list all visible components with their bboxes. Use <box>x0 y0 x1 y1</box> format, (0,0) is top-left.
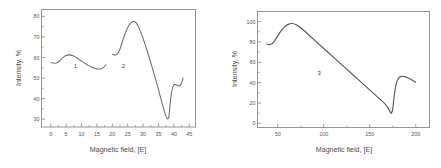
x-tick-label: 15 <box>94 131 100 137</box>
y-tick-label: 80 <box>34 13 40 19</box>
x-tick-labels-left: 0 5 10 15 20 25 30 35 40 45 <box>49 131 192 137</box>
x-tick-label: 30 <box>140 131 146 137</box>
data-curve-1 <box>51 55 106 69</box>
x-axis-ticks-right <box>278 124 416 128</box>
x-tick-label: 50 <box>275 131 281 137</box>
chart-svg-right: 100 80 60 40 20 0 50 100 150 200 Magneti… <box>220 0 441 168</box>
y-tick-label: 30 <box>34 116 40 122</box>
y-tick-labels-right: 100 80 60 40 20 0 <box>247 19 256 127</box>
y-tick-label: 20 <box>250 100 256 106</box>
data-curve-2 <box>112 21 183 119</box>
x-tick-label: 45 <box>186 131 192 137</box>
x-tick-label: 35 <box>156 131 162 137</box>
plot-frame-left <box>42 10 196 128</box>
y-tick-label: 40 <box>34 96 40 102</box>
y-tick-label: 50 <box>34 75 40 81</box>
y-tick-labels-left: 80 70 60 50 40 30 <box>34 13 40 122</box>
y-tick-label: 0 <box>253 120 256 126</box>
curve-label-3: 3 <box>317 70 321 76</box>
x-tick-label: 40 <box>171 131 177 137</box>
x-tick-label: 5 <box>65 131 68 137</box>
chart-panel-right: 100 80 60 40 20 0 50 100 150 200 Magneti… <box>220 0 441 168</box>
y-tick-label: 60 <box>34 55 40 61</box>
x-tick-label: 0 <box>49 131 52 137</box>
x-tick-labels-right: 50 100 150 200 <box>275 131 421 137</box>
y-axis-ticks-right <box>258 22 262 124</box>
x-axis-ticks-left <box>51 124 190 128</box>
y-tick-label: 80 <box>250 39 256 45</box>
y-tick-label: 100 <box>247 19 256 25</box>
x-tick-label: 200 <box>411 131 420 137</box>
chart-svg-left: 80 70 60 50 40 30 0 5 10 15 20 25 30 35 … <box>0 0 220 168</box>
y-tick-label: 70 <box>34 34 40 40</box>
y-axis-title-right: Intensity, % <box>231 50 239 87</box>
x-tick-label: 100 <box>319 131 328 137</box>
x-tick-label: 10 <box>79 131 85 137</box>
x-tick-label: 25 <box>125 131 131 137</box>
x-tick-label: 150 <box>365 131 374 137</box>
curve-label-2: 2 <box>122 63 125 69</box>
y-axis-ticks-left <box>42 16 46 119</box>
y-tick-label: 40 <box>250 80 256 86</box>
data-curve-3 <box>267 23 416 113</box>
chart-panel-left: 80 70 60 50 40 30 0 5 10 15 20 25 30 35 … <box>0 0 220 168</box>
x-axis-title-right: Magnetic field, [E] <box>316 146 372 154</box>
x-axis-title-left: Magnetic field, [E] <box>90 146 146 154</box>
figure-container: 80 70 60 50 40 30 0 5 10 15 20 25 30 35 … <box>0 0 441 168</box>
curve-label-1: 1 <box>74 63 77 69</box>
x-tick-label: 20 <box>109 131 115 137</box>
y-axis-title-left: Intensity, % <box>15 49 23 86</box>
y-tick-label: 60 <box>250 59 256 65</box>
